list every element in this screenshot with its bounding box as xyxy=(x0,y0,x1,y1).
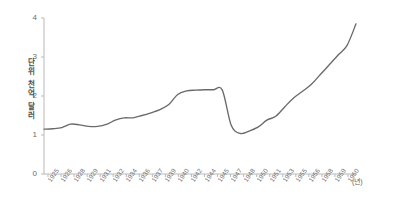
y-axis-title: 단위천억달러 xyxy=(20,58,42,120)
y-axis-title-char: 천 xyxy=(20,80,42,89)
y-axis-title-char: 위 xyxy=(20,67,42,76)
y-axis-tick-label: 0 xyxy=(27,170,37,178)
y-axis-title-char: 단 xyxy=(20,58,42,67)
y-axis-title-char: 억 xyxy=(20,89,42,98)
data-series-line xyxy=(44,24,356,134)
y-axis-title-char: 달 xyxy=(20,102,42,111)
x-axis-unit-label: (년) xyxy=(352,176,363,186)
y-axis-tick-label: 1 xyxy=(27,131,37,139)
y-axis-title-char: 러 xyxy=(20,111,42,120)
chart-container: 01234 단위천억달러 192519261928192919311932193… xyxy=(0,0,393,208)
y-axis-tick-label: 4 xyxy=(27,14,37,22)
